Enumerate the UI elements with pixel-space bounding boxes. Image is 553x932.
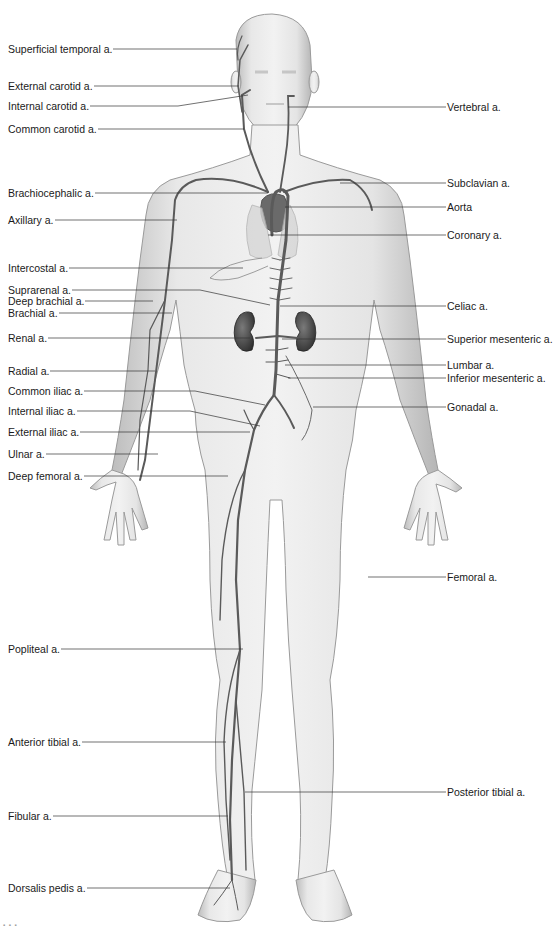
label-anterior-tibial: Anterior tibial a.	[8, 736, 81, 748]
label-renal: Renal a.	[8, 332, 47, 344]
label-radial: Radial a.	[8, 365, 49, 377]
label-deep-femoral: Deep femoral a.	[8, 470, 83, 482]
label-brachiocephalic: Brachiocephalic a.	[8, 187, 94, 199]
label-aorta: Aorta	[447, 201, 472, 213]
left-hand	[404, 470, 462, 545]
label-superior-mesenteric: Superior mesenteric a.	[447, 333, 553, 345]
label-vertebral: Vertebral a.	[447, 101, 501, 113]
label-external-iliac: External iliac a.	[8, 426, 79, 438]
label-dorsalis-pedis: Dorsalis pedis a.	[8, 882, 86, 894]
label-ulnar: Ulnar a.	[8, 448, 45, 460]
head	[236, 14, 312, 134]
label-lumbar: Lumbar a.	[447, 359, 494, 371]
label-posterior-tibial: Posterior tibial a.	[447, 786, 525, 798]
label-internal-iliac: Internal iliac a.	[8, 405, 76, 417]
right-hand	[90, 470, 148, 545]
label-femoral: Femoral a.	[447, 571, 497, 583]
label-deep-brachial: Deep brachial a.	[8, 295, 84, 307]
right-foot	[198, 870, 256, 922]
label-popliteal: Popliteal a.	[8, 643, 60, 655]
label-fibular: Fibular a.	[8, 810, 52, 822]
label-gonadal: Gonadal a.	[447, 401, 498, 413]
label-common-iliac: Common iliac a.	[8, 385, 83, 397]
label-common-carotid: Common carotid a.	[8, 123, 97, 135]
label-celiac: Celiac a.	[447, 300, 488, 312]
label-axillary: Axillary a.	[8, 214, 54, 226]
left-foot	[296, 870, 352, 922]
label-coronary: Coronary a.	[447, 229, 502, 241]
body-silhouette	[90, 14, 462, 922]
label-internal-carotid: Internal carotid a.	[8, 100, 89, 112]
figure-credit: ▪ ▪ ▪	[3, 922, 18, 928]
torso	[112, 125, 438, 880]
label-superficial-temporal: Superficial temporal a.	[8, 43, 112, 55]
label-inferior-mesenteric: Inferior mesenteric a.	[447, 372, 546, 384]
label-brachial: Brachial a.	[8, 307, 58, 319]
label-external-carotid: External carotid a.	[8, 80, 93, 92]
label-intercostal: Intercostal a.	[8, 262, 68, 274]
label-subclavian: Subclavian a.	[447, 177, 510, 189]
leader-line	[90, 95, 248, 106]
